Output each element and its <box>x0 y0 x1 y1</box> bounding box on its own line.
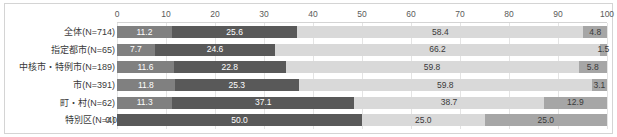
bar-segment[interactable]: 37.1 <box>172 97 354 109</box>
bar-rows: 11.225.658.44.87.724.666.21.511.622.859.… <box>117 23 607 129</box>
bar-segment[interactable]: 22.8 <box>174 61 286 73</box>
bar-segment-value-label: 25.3 <box>229 81 246 90</box>
bar-segment[interactable]: 3.1 <box>592 79 607 91</box>
bar-segment[interactable]: 7.7 <box>117 44 155 56</box>
bar-segment-value-label: 66.2 <box>429 45 446 54</box>
x-axis-tick-label: 80 <box>504 7 513 21</box>
bar-segment-value-label: 25.6 <box>226 28 243 37</box>
bar-segment[interactable]: 25.0 <box>362 114 485 126</box>
y-axis-category-label: 市(N=391) <box>73 81 115 90</box>
bar-row: 11.225.658.44.8 <box>117 26 607 38</box>
bar-row: 11.337.138.712.9 <box>117 97 607 109</box>
bar-segment-value-label: 25.0 <box>415 116 432 125</box>
bar-segment-value-label: 4.8 <box>589 28 601 37</box>
bar-segment[interactable]: 59.8 <box>299 79 592 91</box>
bar-segment[interactable]: 59.8 <box>286 61 579 73</box>
bar-segment-value-label: 12.9 <box>567 98 584 107</box>
bar-segment-value-label: 59.8 <box>424 63 441 72</box>
bar-segment[interactable]: 5.8 <box>579 61 607 73</box>
y-axis-category-label: 中核市・特例市(N=189) <box>19 63 115 72</box>
x-axis-tick-label: 60 <box>406 7 415 21</box>
bar-segment-value-label: 5.8 <box>587 63 599 72</box>
bar-row: 11.825.359.83.1 <box>117 79 607 91</box>
bar-segment[interactable]: 38.7 <box>354 97 544 109</box>
bar-segment[interactable]: 1.5 <box>600 44 607 56</box>
bar-segment-value-label: 11.8 <box>138 81 154 90</box>
x-axis-tick-label: 100 <box>600 7 614 21</box>
x-axis-tick-label: 40 <box>308 7 317 21</box>
x-axis-tick-label: 10 <box>161 7 170 21</box>
bar-row: 11.622.859.85.8 <box>117 61 607 73</box>
bar-segment-value-label: 50.0 <box>231 116 248 125</box>
x-axis-tick-label: 20 <box>210 7 219 21</box>
bar-segment-value-label: 0.0 <box>105 116 117 125</box>
bar-segment-value-label: 11.6 <box>137 63 153 72</box>
bar-segment-value-label: 37.1 <box>255 98 272 107</box>
bar-segment-value-label: 7.7 <box>130 45 142 54</box>
x-axis-tick-label: 50 <box>357 7 366 21</box>
bar-segment-value-label: 58.4 <box>432 28 449 37</box>
bar-segment-value-label: 22.8 <box>221 63 238 72</box>
bar-segment-value-label: 3.1 <box>593 81 605 90</box>
bar-segment-value-label: 38.7 <box>441 98 458 107</box>
x-axis-tick-label: 90 <box>553 7 562 21</box>
bar-segment-value-label: 25.0 <box>537 116 554 125</box>
bar-segment[interactable]: 24.6 <box>155 44 276 56</box>
x-axis-tick-label: 70 <box>455 7 464 21</box>
bar-segment[interactable]: 50.0 <box>117 114 362 126</box>
x-axis-tick-label: 0 <box>115 7 120 21</box>
bar-segment[interactable]: 11.2 <box>117 26 172 38</box>
bar-segment[interactable]: 25.3 <box>175 79 299 91</box>
y-axis-category-label: 全体(N=714) <box>64 28 115 37</box>
x-axis-tick-labels: 0102030405060708090100 <box>117 7 607 22</box>
bar-segment[interactable]: 58.4 <box>297 26 583 38</box>
bar-segment[interactable]: 12.9 <box>544 97 607 109</box>
bar-segment-value-label: 59.8 <box>437 81 454 90</box>
bar-segment[interactable]: 25.6 <box>172 26 297 38</box>
bar-row: 7.724.666.21.5 <box>117 44 607 56</box>
bar-segment-value-label: 11.2 <box>136 28 152 37</box>
y-axis-category-labels: 全体(N=714)指定都市(N=65)中核市・特例市(N=189)市(N=391… <box>6 23 115 129</box>
bar-segment-value-label: 24.6 <box>207 45 224 54</box>
gridline <box>607 23 608 129</box>
plot-area: 11.225.658.44.87.724.666.21.511.622.859.… <box>117 23 607 129</box>
bar-segment[interactable]: 11.6 <box>117 61 174 73</box>
stacked-bar-chart: 0102030405060708090100 全体(N=714)指定都市(N=6… <box>0 0 617 137</box>
y-axis-category-label: 町・村(N=62) <box>60 99 115 108</box>
bar-segment[interactable]: 66.2 <box>275 44 599 56</box>
y-axis-category-label: 指定都市(N=65) <box>51 46 115 55</box>
bar-segment-value-label: 11.3 <box>137 98 153 107</box>
bar-segment[interactable]: 25.0 <box>485 114 608 126</box>
bar-segment-value-label: 1.5 <box>597 45 609 54</box>
bar-row: 0.050.025.025.0 <box>117 114 607 126</box>
bar-segment[interactable]: 4.8 <box>583 26 607 38</box>
bar-segment[interactable]: 11.3 <box>117 97 172 109</box>
bar-segment[interactable]: 11.8 <box>117 79 175 91</box>
x-axis-tick-label: 30 <box>259 7 268 21</box>
